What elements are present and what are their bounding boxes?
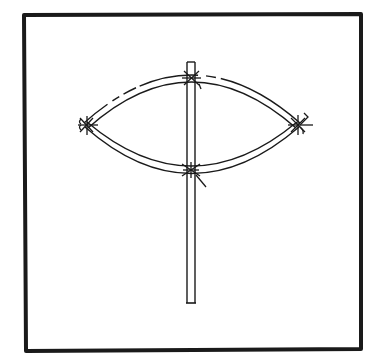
lower-arc xyxy=(85,122,299,174)
top-tie-icon xyxy=(182,71,201,89)
square-border xyxy=(24,14,361,351)
stick-frame-diagram xyxy=(0,0,380,362)
vertical-stick xyxy=(186,62,196,303)
upper-arc xyxy=(84,75,300,128)
